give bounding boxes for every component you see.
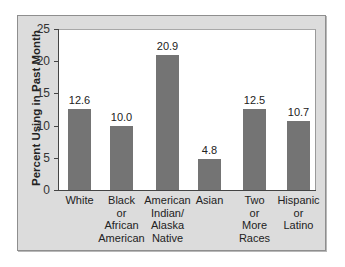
bar-value-label: 20.9 [148, 40, 188, 52]
bar-value-label: 10.0 [102, 111, 142, 123]
y-tick-mark [54, 158, 59, 159]
x-axis [58, 190, 316, 191]
bar [156, 55, 179, 190]
y-tick-label: 25 [30, 23, 50, 35]
bar [68, 109, 91, 190]
y-axis [58, 29, 59, 191]
bar-value-label: 12.6 [60, 94, 100, 106]
plot-area [59, 29, 316, 190]
bar-value-label: 4.8 [190, 144, 230, 156]
y-tick-label: 20 [30, 55, 50, 67]
bar [110, 126, 133, 190]
y-tick-mark [54, 126, 59, 127]
bar [287, 121, 310, 190]
y-tick-label: 10 [30, 120, 50, 132]
y-tick-mark [54, 190, 59, 191]
y-axis-title: Percent Using in Past Month [30, 23, 42, 193]
y-tick-mark [54, 61, 59, 62]
y-tick-label: 15 [30, 87, 50, 99]
y-tick-mark [54, 93, 59, 94]
bar [243, 109, 266, 190]
bar-value-label: 10.7 [279, 106, 319, 118]
bar [198, 159, 221, 190]
bar-value-label: 12.5 [235, 94, 275, 106]
y-tick-label: 5 [30, 152, 50, 164]
y-tick-label: 0 [30, 184, 50, 196]
y-tick-mark [54, 29, 59, 30]
x-category-label: Hispanic or Latino [269, 194, 329, 232]
